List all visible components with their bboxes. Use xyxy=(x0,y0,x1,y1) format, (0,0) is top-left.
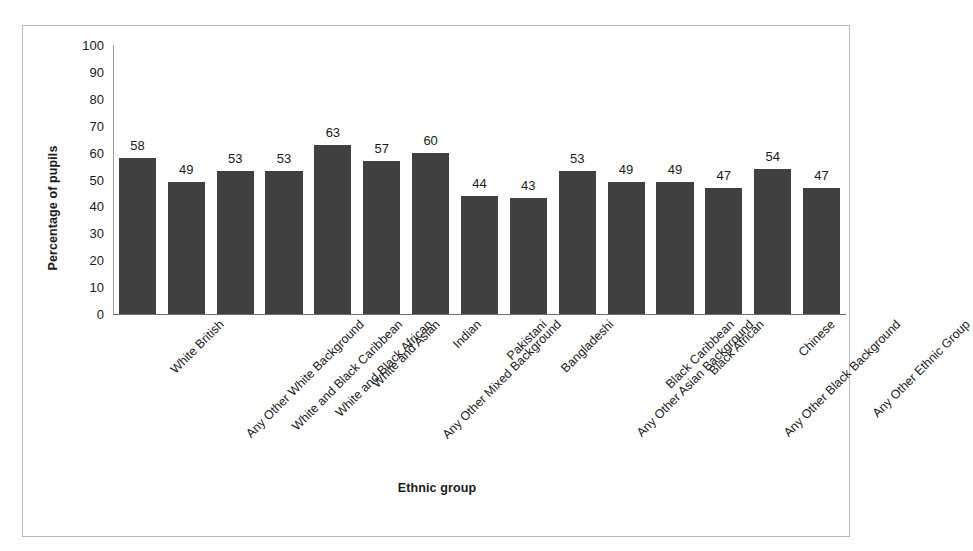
bar-slot: 58 xyxy=(113,45,162,314)
bar[interactable] xyxy=(217,171,254,314)
bar[interactable] xyxy=(803,188,840,314)
y-tick-label-50: 50 xyxy=(90,173,104,186)
x-category-label: Indian xyxy=(451,318,484,351)
plot-area: 1009080706050403020100 58495353635760444… xyxy=(113,45,846,314)
bar-value-label: 60 xyxy=(406,134,455,147)
y-tick-label-100: 100 xyxy=(82,39,104,52)
bar-value-label: 44 xyxy=(455,177,504,190)
bar-slot: 53 xyxy=(260,45,309,314)
bar[interactable] xyxy=(656,182,693,314)
bar-value-label: 49 xyxy=(602,163,651,176)
x-category-label: Chinese xyxy=(797,318,838,359)
bar-slot: 53 xyxy=(553,45,602,314)
y-tick-label-90: 90 xyxy=(90,65,104,78)
bar-value-label: 63 xyxy=(308,126,357,139)
x-axis-category-labels: White BritishAny Other White BackgroundW… xyxy=(113,318,846,478)
bar-value-label: 43 xyxy=(504,179,553,192)
bar[interactable] xyxy=(168,182,205,314)
y-tick-label-30: 30 xyxy=(90,227,104,240)
bar[interactable] xyxy=(754,169,791,314)
bar-slot: 47 xyxy=(797,45,846,314)
y-tick-label-80: 80 xyxy=(90,92,104,105)
bar-series: 584953536357604443534949475447 xyxy=(113,45,846,314)
y-tick-label-10: 10 xyxy=(90,281,104,294)
bar[interactable] xyxy=(510,198,547,314)
bar-slot: 54 xyxy=(748,45,797,314)
bar[interactable] xyxy=(363,161,400,314)
bar[interactable] xyxy=(559,171,596,314)
bar-slot: 47 xyxy=(699,45,748,314)
bar-slot: 57 xyxy=(357,45,406,314)
chart-frame: Percentage of pupils Ethnic group 100908… xyxy=(22,25,850,537)
y-axis-title: Percentage of pupils xyxy=(46,123,60,293)
bar-slot: 43 xyxy=(504,45,553,314)
x-axis-line xyxy=(113,314,846,315)
bar-value-label: 47 xyxy=(797,169,846,182)
x-category-label: White and Asian xyxy=(370,318,442,390)
bar[interactable] xyxy=(412,153,449,314)
bar-value-label: 58 xyxy=(113,139,162,152)
bar-value-label: 54 xyxy=(748,150,797,163)
y-tick-label-70: 70 xyxy=(90,119,104,132)
bar-value-label: 53 xyxy=(260,152,309,165)
bar-value-label: 49 xyxy=(651,163,700,176)
bar[interactable] xyxy=(608,182,645,314)
x-category-label: Any Other Black Background xyxy=(781,318,902,439)
bar-value-label: 47 xyxy=(699,169,748,182)
bar-value-label: 53 xyxy=(211,152,260,165)
bar-value-label: 49 xyxy=(162,163,211,176)
bar[interactable] xyxy=(705,188,742,314)
bar[interactable] xyxy=(461,196,498,314)
bar-slot: 63 xyxy=(308,45,357,314)
bar-value-label: 57 xyxy=(357,142,406,155)
bar-slot: 60 xyxy=(406,45,455,314)
bar-slot: 44 xyxy=(455,45,504,314)
bar-slot: 49 xyxy=(602,45,651,314)
bar[interactable] xyxy=(265,171,302,314)
x-axis-title: Ethnic group xyxy=(23,481,851,495)
x-category-label: White British xyxy=(169,318,227,376)
bar-slot: 49 xyxy=(651,45,700,314)
x-category-label: Bangladeshi xyxy=(559,318,616,375)
y-tick-label-60: 60 xyxy=(90,146,104,159)
bar-slot: 49 xyxy=(162,45,211,314)
bar[interactable] xyxy=(314,145,351,314)
bar-slot: 53 xyxy=(211,45,260,314)
y-tick-label-0: 0 xyxy=(97,308,104,321)
bar[interactable] xyxy=(119,158,156,314)
bar-value-label: 53 xyxy=(553,152,602,165)
y-tick-label-40: 40 xyxy=(90,200,104,213)
y-tick-label-20: 20 xyxy=(90,254,104,267)
